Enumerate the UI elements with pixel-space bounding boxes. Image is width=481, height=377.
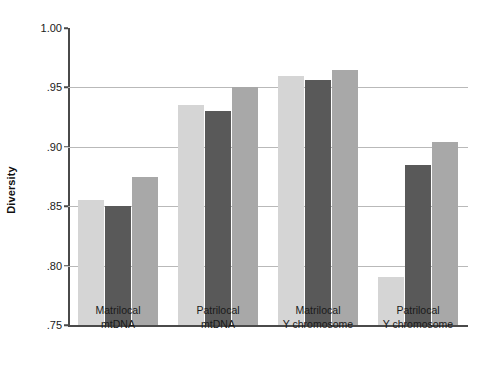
bar xyxy=(132,177,158,326)
x-axis-category-label: PatrilocalY chromosome xyxy=(358,304,478,331)
bar xyxy=(405,165,431,325)
bar-chart: Diversity 1.00.95.90.85.80.75 Matrilocal… xyxy=(0,0,481,377)
gridline xyxy=(68,87,468,88)
y-axis-tick-label: .80 xyxy=(47,260,62,272)
category-label-line1: Patrilocal xyxy=(358,304,478,318)
y-axis-tick-mark xyxy=(64,265,68,267)
bar xyxy=(278,76,304,325)
y-axis-title: Diversity xyxy=(2,150,20,230)
gridline xyxy=(68,147,468,148)
category-label-line2: Y chromosome xyxy=(358,318,478,332)
y-axis-tick-mark xyxy=(64,205,68,207)
bar xyxy=(332,70,358,325)
plot-area: 1.00.95.90.85.80.75 xyxy=(68,28,468,325)
y-axis-tick-label: .95 xyxy=(47,81,62,93)
y-axis-tick-label: .90 xyxy=(47,141,62,153)
y-axis-tick-mark xyxy=(64,146,68,148)
bar xyxy=(432,142,458,325)
bar xyxy=(305,80,331,325)
bar xyxy=(232,87,258,325)
y-axis-tick-label: .85 xyxy=(47,200,62,212)
bar xyxy=(178,105,204,325)
y-axis-tick-mark xyxy=(64,87,68,89)
bar xyxy=(205,111,231,325)
y-axis-tick-label: 1.00 xyxy=(41,22,62,34)
y-axis-tick-mark xyxy=(64,27,68,29)
y-axis-line xyxy=(68,28,70,325)
y-axis-title-label: Diversity xyxy=(5,166,17,213)
